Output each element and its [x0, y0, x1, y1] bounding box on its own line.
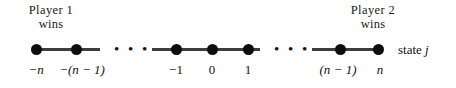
player-1-wins-caption: Player 1 wins	[8, 3, 94, 31]
player-2-wins-caption: Player 2 wins	[330, 3, 416, 31]
tick-label-minus-1: −1	[169, 62, 183, 78]
tick-label-one: 1	[245, 62, 252, 78]
state-axis-label-text: state	[398, 42, 422, 57]
tick-label-n-minus-1: (n − 1)	[320, 62, 357, 78]
tick-label-n: n	[377, 62, 384, 78]
player-2-wins-text: wins	[330, 17, 416, 31]
state-node-one	[243, 44, 254, 55]
state-axis-label-variable: j	[425, 42, 429, 57]
tick-label-zero: 0	[209, 62, 216, 78]
state-node-n-minus-1	[335, 44, 346, 55]
number-line-figure: Player 1 wins Player 2 wins • • • • • • …	[0, 0, 456, 88]
player-1-wins-text: wins	[8, 17, 94, 31]
player-2-label: Player 2	[330, 3, 416, 17]
state-node-minus-1	[171, 44, 182, 55]
state-node-n	[373, 44, 384, 55]
player-1-label: Player 1	[8, 3, 94, 17]
state-node-zero	[207, 44, 218, 55]
tick-label-minus-n: −n	[28, 62, 43, 78]
ellipsis-right-icon: • • •	[274, 40, 310, 58]
state-axis-label: state j	[398, 42, 429, 58]
line-segment-left	[36, 48, 100, 51]
state-node-minus-n	[31, 44, 42, 55]
state-node-minus-n-1	[71, 44, 82, 55]
ellipsis-left-icon: • • •	[114, 40, 150, 58]
tick-label-minus-n-1: −(n − 1)	[59, 62, 105, 78]
